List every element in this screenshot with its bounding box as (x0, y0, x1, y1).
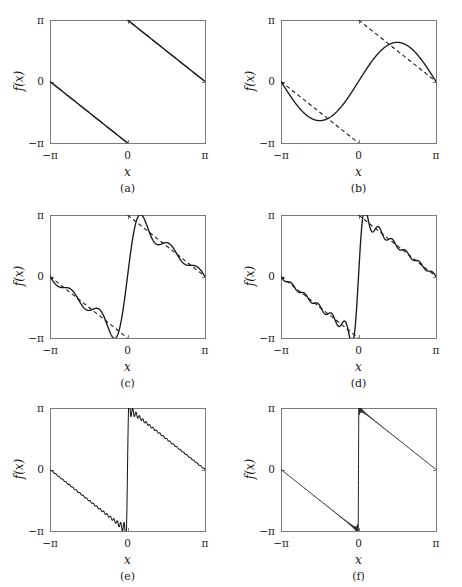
fourier-series-figure: π0−π−π0πf(x)x(a)π0−π−π0πf(x)x(b)π0−π−π0π… (0, 0, 462, 587)
panel-b: π0−π−π0πf(x)x(b) (231, 0, 462, 195)
ytick-label: −π (241, 526, 275, 537)
xtick-label: −π (261, 345, 301, 356)
x-axis-label: x (108, 166, 148, 178)
panel-a: π0−π−π0πf(x)x(a) (0, 0, 231, 195)
xtick-label: 0 (339, 150, 379, 161)
y-axis-label: f(x) (13, 58, 25, 104)
xtick-label: π (185, 150, 225, 161)
ytick-label: π (10, 210, 44, 221)
ytick-label: −π (10, 526, 44, 537)
x-axis-label: x (339, 554, 379, 566)
xtick-label: π (416, 150, 456, 161)
xtick-label: π (185, 538, 225, 549)
xtick-label: 0 (339, 345, 379, 356)
xtick-label: π (185, 345, 225, 356)
panel-caption-a: (a) (98, 183, 158, 194)
panel-caption-f: (f) (329, 571, 389, 582)
panel-c: π0−π−π0πf(x)x(c) (0, 195, 231, 388)
plot-area-d (231, 195, 462, 388)
ytick-label: −π (241, 138, 275, 149)
panel-d: π0−π−π0πf(x)x(d) (231, 195, 462, 388)
ytick-label: −π (10, 138, 44, 149)
xtick-label: −π (30, 150, 70, 161)
ytick-label: π (241, 403, 275, 414)
axes-frame (51, 21, 206, 144)
panel-caption-e: (e) (98, 571, 158, 582)
ytick-label: −π (241, 333, 275, 344)
xtick-label: −π (30, 345, 70, 356)
y-axis-label: f(x) (244, 58, 256, 104)
y-axis-label: f(x) (244, 446, 256, 492)
x-axis-label: x (108, 554, 148, 566)
xtick-label: 0 (108, 150, 148, 161)
xtick-label: −π (261, 150, 301, 161)
ytick-label: π (10, 403, 44, 414)
x-axis-label: x (339, 361, 379, 373)
xtick-label: 0 (108, 538, 148, 549)
ytick-label: π (241, 15, 275, 26)
panel-f: π0−π−π0πf(x)x(f) (231, 388, 462, 587)
x-axis-label: x (108, 361, 148, 373)
axes-frame (282, 21, 437, 144)
xtick-label: −π (30, 538, 70, 549)
xtick-label: 0 (339, 538, 379, 549)
y-axis-label: f(x) (13, 253, 25, 299)
panel-e: π0−π−π0πf(x)x(e) (0, 388, 231, 587)
ytick-label: π (241, 210, 275, 221)
xtick-label: π (416, 538, 456, 549)
x-axis-label: x (339, 166, 379, 178)
ytick-label: −π (10, 333, 44, 344)
xtick-label: 0 (108, 345, 148, 356)
ytick-label: π (10, 15, 44, 26)
y-axis-label: f(x) (244, 253, 256, 299)
plot-area-c (0, 195, 231, 388)
xtick-label: −π (261, 538, 301, 549)
xtick-label: π (416, 345, 456, 356)
panel-caption-b: (b) (329, 183, 389, 194)
y-axis-label: f(x) (13, 446, 25, 492)
